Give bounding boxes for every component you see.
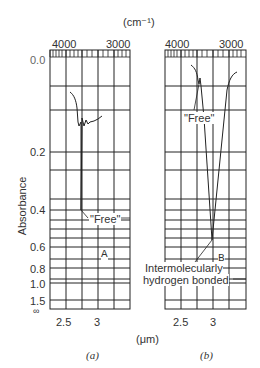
hbond-label-line2: hydrogen bonded <box>143 274 229 286</box>
spectra-chart <box>0 0 260 368</box>
panel-b-top-ticks <box>165 50 246 57</box>
panel-a-frame <box>50 50 130 309</box>
panel-a-free-label: "Free" <box>89 213 121 225</box>
bottom-axis-unit: (μm) <box>136 333 159 345</box>
panel-b-bottom-tick-3: 3 <box>210 316 216 328</box>
panel-a-label: A <box>101 248 108 260</box>
panel-a-bottom-tick-3: 3 <box>94 316 100 328</box>
panel-b-free-label: "Free" <box>183 112 215 124</box>
panel-a-caption: (a) <box>86 349 99 361</box>
hbond-label-line1: Intermolecularly <box>145 262 223 274</box>
panel-a-top-ticks <box>50 50 130 57</box>
panel-a-bottom-tick-2-5: 2.5 <box>56 316 71 328</box>
panel-b-caption: (b) <box>200 349 213 361</box>
panel-b-bottom-tick-2-5: 2.5 <box>173 316 188 328</box>
